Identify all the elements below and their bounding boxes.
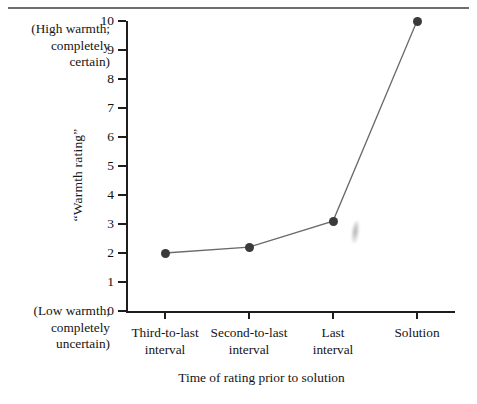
data-point-marker	[413, 17, 422, 26]
series-polyline	[165, 21, 417, 253]
data-point-marker	[245, 243, 254, 252]
figure-canvas: (High warmth; completely certain) (Low w…	[0, 0, 477, 404]
x-axis-title: Time of rating prior to solution	[0, 370, 477, 386]
data-point-marker	[329, 217, 338, 226]
data-point-marker	[161, 249, 170, 258]
series-line	[0, 0, 477, 404]
